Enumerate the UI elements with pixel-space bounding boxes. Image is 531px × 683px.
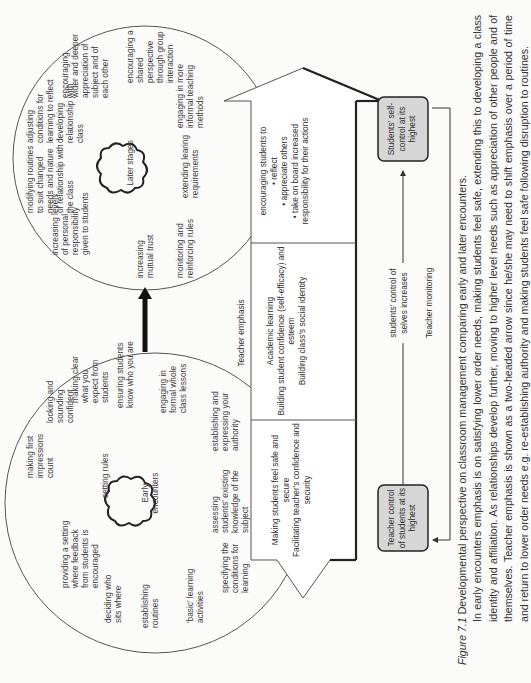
- early-item: engaging in formal whole class lessons: [158, 347, 188, 413]
- early-item: deciding who sits where: [103, 563, 123, 623]
- early-item: making clear what you expect from studen…: [70, 348, 110, 403]
- early-item: providing a setting where feedback from …: [60, 516, 100, 588]
- later-item: monitoring and reinforcing rules: [175, 214, 195, 278]
- figure-label: Figure 7.1: [456, 617, 468, 665]
- early-item: specifying the conditions for learning: [220, 533, 250, 593]
- emphasis-section-later: encouraging students to • reflect • appr…: [258, 102, 311, 240]
- later-item: increasing mutual trust: [135, 218, 155, 278]
- later-item: modifying routines to suit changed needs…: [25, 143, 75, 213]
- figure-page: Early encounters making first impression…: [0, 0, 531, 683]
- early-item: ensuring students know who you are: [115, 338, 135, 408]
- teacher-control-label: Teacher control of students at its highe…: [386, 487, 418, 549]
- emphasis-section-early: Making students feel safe and secure Fac…: [270, 422, 312, 558]
- figure-body: In early encounters emphasis is on satis…: [470, 15, 531, 665]
- early-item: 'basic' learning activities: [185, 563, 205, 623]
- teacher-monitoring-loop: [432, 108, 450, 540]
- figure-caption: Figure 7.1 Developmental perspective on …: [455, 15, 531, 665]
- later-item: engaging in more informal teaching metho…: [175, 58, 205, 128]
- later-center-label: Later stages: [125, 128, 135, 198]
- later-item: encouraging wider and deeper appreciatio…: [60, 32, 110, 98]
- teacher-emphasis-heading: Teacher emphasis: [236, 273, 247, 393]
- early-item: establishing routines: [140, 568, 160, 628]
- emphasis-section-middle: Academic learning Building student confi…: [265, 245, 307, 417]
- teacher-monitoring-label: Teacher monitoring: [424, 258, 435, 348]
- figure-title: Developmental perspective on classroom m…: [456, 175, 468, 614]
- later-item: encouraging a shared perspective through…: [125, 17, 175, 83]
- early-item: establishing and expressing your authori…: [210, 385, 240, 451]
- student-self-control-label: Students' self-control at its highest: [386, 99, 418, 159]
- early-item: assessing students' existing knowledge o…: [210, 463, 250, 533]
- early-item: making first impressions count: [25, 418, 55, 478]
- later-cloud-icon: [97, 143, 147, 192]
- later-item: extending learing requirements: [180, 134, 200, 198]
- early-item: setting rules: [100, 438, 110, 498]
- control-progress-label: students' control of selves increases: [388, 261, 409, 345]
- early-center-label: Early encounters: [140, 463, 160, 523]
